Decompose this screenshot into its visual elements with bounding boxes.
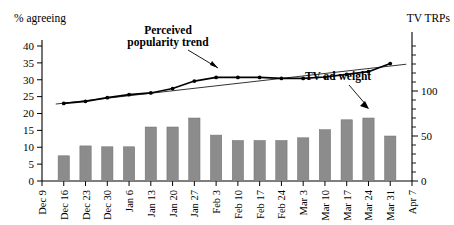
line-marker[interactable]: [62, 101, 66, 105]
bar[interactable]: Jan 20: 60 TRPs: [167, 127, 178, 181]
line-marker[interactable]: [258, 75, 262, 79]
bar-annotation-label: TV ad weight: [305, 70, 371, 83]
y-axis-left-tick-label: 30: [23, 74, 35, 86]
y-axis-left-tick-label: 15: [23, 124, 35, 136]
y-axis-left-tick-label: 20: [23, 107, 35, 119]
line-marker[interactable]: [214, 75, 218, 79]
x-axis-tick-label: Dec 23: [81, 190, 92, 220]
bar[interactable]: Mar 10: 57 TRPs: [319, 130, 330, 181]
y-axis-right-title: TV TRPs: [407, 12, 451, 24]
x-axis-tick-label: Mar 17: [342, 190, 353, 221]
y-axis-left-tick-label: 10: [23, 141, 35, 153]
line-marker[interactable]: [127, 93, 131, 97]
bar[interactable]: Mar 24: 70 TRPs: [363, 118, 374, 181]
chart-figure: 0510152025303540% agreeing050100TV TRPsD…: [0, 0, 454, 225]
x-axis-tick-label: Feb 17: [255, 190, 266, 219]
line-marker[interactable]: [84, 99, 88, 103]
trend-annotation-line1: Perceived: [144, 24, 192, 36]
x-axis-tick-label: Jan 6: [124, 190, 135, 212]
x-axis-tick-label: Feb 10: [233, 190, 244, 219]
bar[interactable]: Jan 27: 70 TRPs: [189, 118, 200, 181]
chart-canvas: 0510152025303540% agreeing050100TV TRPsD…: [0, 0, 454, 225]
y-axis-left-tick-label: 25: [23, 90, 35, 102]
bar-annotation-arrow: [360, 101, 369, 109]
x-axis-tick-label: Jan 13: [146, 190, 157, 217]
line-marker[interactable]: [105, 96, 109, 100]
trend-annotation-line2: popularity trend: [127, 36, 209, 49]
y-axis-left-tick-label: 5: [29, 158, 35, 170]
line-marker[interactable]: [280, 77, 284, 81]
line-marker[interactable]: [192, 79, 196, 83]
y-axis-left-tick-label: 35: [23, 57, 35, 69]
line-marker[interactable]: [236, 75, 240, 79]
x-axis-tick-label: Apr 7: [407, 190, 418, 214]
bar[interactable]: Dec 30: 38 TRPs: [102, 147, 113, 181]
bar[interactable]: Feb 17: 45 TRPs: [254, 141, 265, 182]
bar[interactable]: Dec 23: 39 TRPs: [80, 146, 91, 181]
x-axis-tick-label: Feb 3: [211, 190, 222, 214]
bar[interactable]: Mar 31: 50 TRPs: [385, 136, 396, 181]
x-axis-tick-label: Dec 16: [59, 190, 70, 220]
x-axis-tick-label: Mar 31: [385, 190, 396, 221]
y-axis-right-tick-label: 50: [421, 130, 433, 142]
y-axis-left-title: % agreeing: [14, 12, 66, 25]
bar[interactable]: Feb 3: 51 TRPs: [210, 135, 221, 181]
bar[interactable]: Mar 17: 68 TRPs: [341, 120, 352, 181]
x-axis-tick-label: Mar 10: [320, 190, 331, 221]
trend-annotation-arrow: [210, 61, 218, 68]
x-axis-tick-label: Jan 27: [189, 190, 200, 217]
x-axis-tick-label: Dec 9: [37, 190, 48, 215]
line-marker[interactable]: [149, 91, 153, 95]
x-axis-tick-label: Mar 24: [363, 189, 374, 220]
x-axis-tick-label: Feb 24: [276, 189, 287, 219]
y-axis-left-tick-label: 40: [23, 40, 35, 52]
line-marker[interactable]: [388, 62, 392, 66]
bar[interactable]: Feb 10: 45 TRPs: [232, 141, 243, 182]
bar[interactable]: Mar 3: 48 TRPs: [298, 138, 309, 181]
x-axis-tick-label: Mar 3: [298, 190, 309, 215]
y-axis-left-tick-label: 0: [29, 175, 35, 187]
bar[interactable]: Feb 24: 45 TRPs: [276, 141, 287, 182]
bar[interactable]: Jan 13: 60 TRPs: [145, 127, 156, 181]
bar[interactable]: Dec 16: 28 TRPs: [58, 156, 69, 181]
y-axis-right-tick-label: 100: [421, 85, 438, 97]
line-marker[interactable]: [171, 87, 175, 91]
x-axis-tick-label: Jan 20: [168, 190, 179, 217]
x-axis-tick-label: Dec 30: [102, 190, 113, 220]
bar[interactable]: Jan 6: 38 TRPs: [123, 147, 134, 181]
y-axis-right-tick-label: 0: [421, 175, 427, 187]
